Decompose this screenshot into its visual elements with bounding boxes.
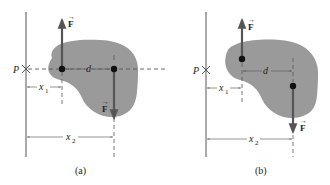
couple-moment-diagram: P F → F → d x 1 x 2 (a) — [0, 0, 330, 185]
caption-b: (b) — [255, 165, 267, 177]
x1-label: x — [218, 82, 224, 93]
panel-b: P F → F → d x 1 x 2 (b) — [192, 12, 318, 177]
x1-subscript: 1 — [225, 88, 229, 96]
x1-label: x — [38, 81, 44, 92]
point-p-label: P — [12, 64, 19, 75]
application-point-2 — [290, 83, 296, 89]
application-point-1 — [59, 66, 65, 72]
application-point-1 — [239, 56, 245, 62]
x2-subscript: 2 — [72, 137, 76, 145]
vector-accent-icon: → — [300, 117, 307, 125]
caption-a: (a) — [75, 165, 86, 177]
point-p-label: P — [192, 65, 199, 76]
x2-subscript: 2 — [255, 139, 259, 147]
x2-label: x — [65, 131, 71, 142]
rigid-body-shape — [225, 40, 318, 119]
vector-accent-icon: → — [248, 16, 255, 24]
x1-subscript: 1 — [45, 87, 49, 95]
application-point-2 — [111, 66, 117, 72]
vector-accent-icon: → — [68, 13, 75, 21]
vector-accent-icon: → — [102, 98, 109, 106]
panel-a: P F → F → d x 1 x 2 (a) — [12, 12, 165, 177]
x2-label: x — [248, 133, 254, 144]
